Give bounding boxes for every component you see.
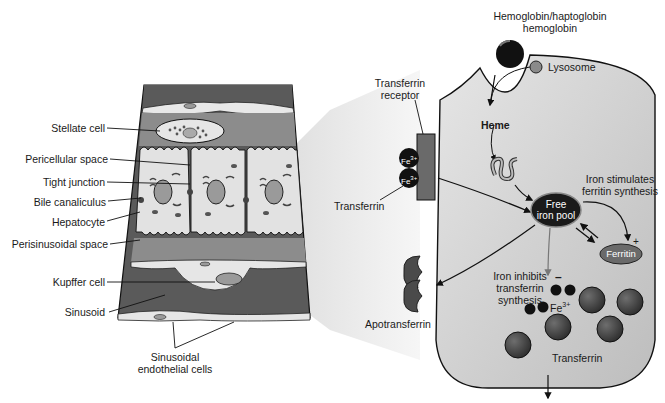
- label-sinusoidal-endothelial-1: Sinusoidal: [125, 351, 225, 363]
- label-iron-inhibits-2: transferrin: [485, 282, 555, 294]
- label-sinusoidal-endothelial-2: endothelial cells: [125, 363, 225, 375]
- label-iron-stimulates-2: ferritin synthesis: [570, 185, 665, 197]
- label-hemoglobin-2: hemoglobin: [480, 22, 620, 34]
- label-iron-inhibits-1: Iron inhibits: [485, 270, 555, 282]
- fe-text: Fe: [401, 157, 410, 166]
- transferrin-receptor: [417, 134, 435, 200]
- label-sinusoid: Sinusoid: [0, 306, 105, 318]
- liver-tissue-section: [118, 85, 310, 321]
- kupffer-nucleus: [216, 273, 242, 285]
- label-transferrin-receptor-1: Transferrin: [360, 77, 440, 89]
- label-transferrin-receptor-2: receptor: [360, 89, 440, 101]
- label-pericellular-space: Pericellular space: [0, 153, 108, 165]
- label-transferrin-left: Transferrin: [334, 200, 384, 212]
- label-iron-stimulates-1: Iron stimulates: [570, 173, 665, 185]
- fe-charge: 3+: [410, 155, 417, 161]
- label-tight-junction: Tight junction: [0, 176, 105, 188]
- label-fe3-2: Fe3+: [401, 172, 417, 188]
- label-transferrin-bottom: Transferrin: [552, 352, 602, 364]
- label-hepatocyte: Hepatocyte: [0, 216, 105, 228]
- label-stellate-cell: Stellate cell: [0, 122, 105, 134]
- label-fe3-inside: Fe3+: [550, 299, 570, 314]
- fe-text: Fe: [401, 177, 410, 186]
- label-iron-inhibits-3: synthesis: [485, 294, 555, 306]
- fe-text: Fe: [550, 302, 562, 314]
- label-perisinusoidal-space: Perisinusoidal space: [0, 238, 108, 250]
- label-ferritin: Ferritin: [600, 248, 642, 260]
- lysosome: [530, 61, 542, 73]
- label-fe3-1: Fe3+: [401, 152, 417, 168]
- label-free-iron-2: iron pool: [526, 210, 586, 222]
- label-kupffer-cell: Kupffer cell: [0, 276, 105, 288]
- fe-charge: 3+: [562, 301, 570, 308]
- label-heme: Heme: [481, 119, 510, 131]
- label-lysosome: Lysosome: [548, 61, 595, 73]
- label-apotransferrin: Apotransferrin: [365, 318, 431, 330]
- label-minus: –: [555, 271, 562, 283]
- label-plus: +: [633, 236, 639, 248]
- label-bile-canaliculus: Bile canaliculus: [0, 196, 106, 208]
- fe-charge: 3+: [410, 175, 417, 181]
- label-hemoglobin-1: Hemoglobin/haptoglobin: [480, 10, 620, 22]
